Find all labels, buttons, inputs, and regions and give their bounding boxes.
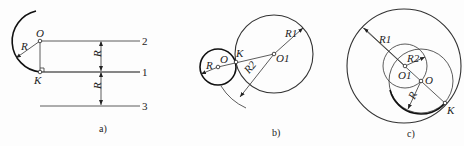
label-o1: O1 [276,52,289,64]
label-r1: R1 [284,27,297,39]
panel-a: O K R R R 2 1 3 a) [12,11,148,135]
label-k: K [446,104,455,116]
tangent-construction-figure: O K R R R 2 1 3 a) O K O1 R R1 R2 b) [0,0,464,146]
radius-r-line [16,41,40,58]
caption-a: a) [99,123,107,135]
label-line-1: 1 [142,66,148,78]
label-r: R [405,89,419,101]
label-dim-lower: R [91,82,103,90]
label-r2: R2 [406,52,420,64]
label-dim-upper: R [91,50,103,58]
center-o-point [419,79,423,83]
center-o1-point [403,64,407,68]
figure-canvas: O K R R R 2 1 3 a) O K O1 R R1 R2 b) [0,0,464,146]
caption-c: c) [407,128,415,140]
label-o: O [36,27,44,39]
label-r1: R1 [378,33,391,45]
panel-c: R1 R2 O1 O R K c) [347,9,461,140]
panel-b: O K O1 R R1 R2 b) [200,15,313,139]
center-o-point [216,65,220,69]
arc-r2 [221,86,246,108]
tangent-arc-o [390,90,446,114]
label-k: K [33,74,42,86]
label-o: O [425,74,433,86]
tangent-k-point [234,60,238,64]
label-line-3: 3 [142,100,148,112]
center-o-point [38,39,42,43]
label-o1: O1 [398,69,411,81]
caption-b: b) [272,127,280,139]
label-o: O [220,53,228,65]
label-r: R [205,59,213,71]
label-k: K [235,47,244,59]
label-line-2: 2 [142,35,148,47]
label-r: R [20,40,28,52]
